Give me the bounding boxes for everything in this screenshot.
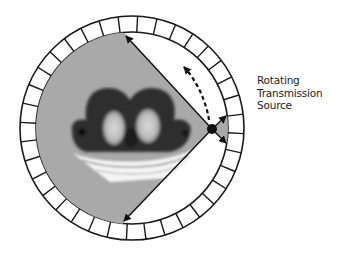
label-line-2: Transmission <box>257 87 322 100</box>
detector-segment-divider <box>126 224 127 240</box>
label-line-3: Source <box>257 99 322 112</box>
detector-segment-divider <box>228 133 244 134</box>
left-lung <box>103 111 125 145</box>
transmission-scan-diagram <box>0 0 340 255</box>
source-label: Rotating Transmission Source <box>257 74 322 112</box>
spine <box>124 128 138 148</box>
right-lung <box>136 109 160 143</box>
detector-segment-divider <box>20 122 36 123</box>
detector-segment-divider <box>137 16 138 32</box>
transmission-source <box>207 124 217 134</box>
label-line-1: Rotating <box>257 74 322 87</box>
